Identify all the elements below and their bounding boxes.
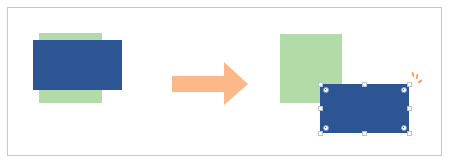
resize-handle-bottom-center[interactable] bbox=[362, 131, 367, 136]
before-blue-rectangle bbox=[33, 40, 122, 90]
corner-marker-bottom-right[interactable] bbox=[401, 125, 407, 131]
corner-marker-bottom-left[interactable] bbox=[323, 125, 329, 131]
resize-handle-top-center[interactable] bbox=[362, 82, 367, 87]
corner-marker-top-right[interactable] bbox=[401, 87, 407, 93]
resize-handle-top-right[interactable] bbox=[407, 82, 412, 87]
resize-handle-middle-left[interactable] bbox=[318, 106, 323, 111]
resize-handle-middle-right[interactable] bbox=[407, 106, 412, 111]
selected-blue-rectangle[interactable] bbox=[320, 84, 409, 133]
resize-handle-bottom-left[interactable] bbox=[318, 131, 323, 136]
right-arrow-icon bbox=[172, 62, 249, 106]
corner-marker-top-left[interactable] bbox=[323, 87, 329, 93]
resize-handle-bottom-right[interactable] bbox=[407, 131, 412, 136]
resize-handle-top-left[interactable] bbox=[318, 82, 323, 87]
